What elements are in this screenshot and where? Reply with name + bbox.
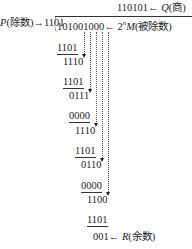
quotient-value: 110101 [117, 2, 148, 13]
divisor-cn: (除数) [6, 17, 33, 28]
step-partial: 1100 [87, 194, 108, 206]
bring-down-guide [84, 32, 85, 54]
bring-down-guide [102, 32, 103, 158]
step-subtrahend: 0000 [69, 110, 90, 123]
dividend-row: 101001000← 2nM(被除数) [57, 17, 172, 33]
step-subtrahend: 0000 [81, 180, 102, 193]
remainder-value: 001 [93, 231, 109, 242]
step-subtrahend: 1101 [63, 76, 84, 89]
dividend-value: 101001000 [57, 21, 104, 32]
remainder-cn: (余数) [128, 231, 155, 242]
quotient-row: 110101← Q(商) [117, 2, 186, 14]
step-partial: 0111 [69, 90, 89, 102]
step-subtrahend: 1101 [57, 42, 78, 55]
step-partial: 1110 [63, 56, 83, 68]
step-partial: 1110 [75, 125, 95, 137]
left-arrow-icon: ← [109, 231, 120, 242]
left-arrow-icon: ← [148, 2, 159, 13]
step-subtrahend: 1101 [87, 214, 108, 227]
quotient-label: (商) [169, 2, 186, 13]
bring-down-guide [96, 32, 97, 124]
bring-down-guide [108, 32, 109, 192]
right-arrow-icon: → [33, 17, 44, 28]
dividend-var: M [126, 21, 135, 32]
remainder-row: 001← R(余数) [93, 231, 155, 243]
quotient-var: Q [161, 2, 169, 13]
dividend-cn: (被除数) [135, 21, 172, 32]
step-partial: 0110 [81, 159, 102, 171]
bring-down-guide [90, 32, 91, 89]
left-arrow-icon: ← [104, 21, 115, 32]
step-subtrahend: 1101 [75, 145, 96, 158]
